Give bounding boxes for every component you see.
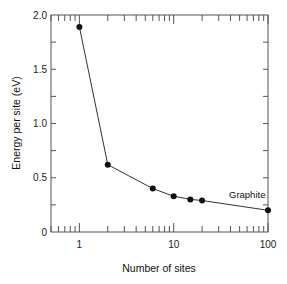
data-point-marker	[105, 162, 111, 168]
data-point-marker	[199, 198, 205, 204]
x-tick-label: 100	[260, 239, 277, 250]
data-point-marker	[171, 193, 177, 199]
x-axis-title: Number of sites	[122, 262, 196, 274]
y-tick-label: 0.5	[33, 172, 47, 183]
x-tick-label: 1	[77, 239, 83, 250]
data-point-marker	[265, 207, 271, 213]
y-tick-label: 1.5	[33, 64, 47, 75]
energy-per-site-chart: 00.51.01.52.0110100 Graphite Number of s…	[0, 0, 287, 284]
axis-tick-labels: 00.51.01.52.0110100	[33, 10, 277, 251]
y-tick-label: 1.0	[33, 118, 47, 129]
graphite-annotation: Graphite	[229, 189, 265, 200]
y-tick-label: 0	[41, 227, 47, 238]
series-line	[79, 27, 268, 210]
data-series	[76, 24, 271, 213]
data-point-marker	[76, 24, 82, 30]
x-tick-label: 10	[168, 239, 180, 250]
data-point-marker	[150, 186, 156, 192]
y-tick-label: 2.0	[33, 10, 47, 21]
y-axis-title: Energy per site (eV)	[10, 76, 22, 169]
data-point-marker	[187, 196, 193, 202]
